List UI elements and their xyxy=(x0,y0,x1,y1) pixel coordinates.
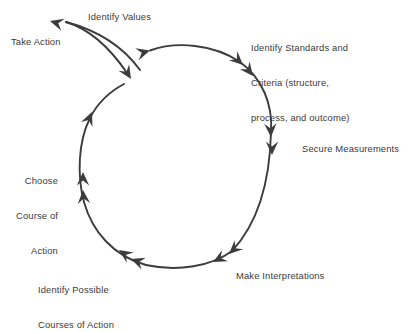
arrowhead-take-action-arc xyxy=(81,110,98,127)
node-label-line: Identify Possible xyxy=(38,284,114,296)
node-label-secure-measurements: Secure Measurements xyxy=(302,143,399,155)
node-label-line: process, and outcome) xyxy=(251,112,350,124)
arrowhead-possible-lower xyxy=(129,253,146,269)
node-label-line: Identify Standards and xyxy=(251,42,350,54)
arc-takeaction-outer xyxy=(66,22,140,70)
node-label-line: Course of xyxy=(8,210,58,222)
arc-choose-to-takeaction xyxy=(80,118,90,202)
node-label-line: Choose xyxy=(8,175,58,187)
node-label-line: Action xyxy=(8,245,58,257)
node-label-make-interpretations: Make Interpretations xyxy=(236,270,324,282)
node-label-take-action: Take Action xyxy=(11,36,61,48)
arc-secure-to-interpretations xyxy=(232,132,271,251)
node-label-identify-standards-criteria: Identify Standards and Criteria (structu… xyxy=(251,19,350,147)
arrowhead-interpretations-lower xyxy=(210,250,228,267)
node-label-identify-values: Identify Values xyxy=(88,11,151,23)
node-label-line: Criteria (structure, xyxy=(251,77,350,89)
arc-values-to-standards xyxy=(150,45,240,62)
arrowhead-standards-upper xyxy=(229,51,247,69)
arrowhead-values-tail xyxy=(119,64,137,82)
node-label-choose-course-of-action: Choose Course of Action xyxy=(8,152,58,280)
arrowhead-take-action xyxy=(48,15,64,31)
arrowhead-choose-upper xyxy=(77,172,89,186)
node-label-line: Courses of Action xyxy=(38,319,114,331)
arrowhead-interpretations-upper xyxy=(225,240,243,258)
arc-takeaction-to-top xyxy=(90,84,124,118)
arc-possible-to-choose xyxy=(84,202,146,265)
arrowhead-identify-values xyxy=(135,45,151,61)
